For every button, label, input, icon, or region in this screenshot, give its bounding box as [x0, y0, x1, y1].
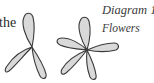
figure-caption-title: Diagram 1	[102, 3, 154, 18]
three-petal-flower-icon	[5, 13, 46, 78]
petal	[87, 50, 97, 79]
petal	[32, 47, 46, 78]
petal	[61, 50, 87, 74]
petal	[23, 13, 34, 47]
petal	[87, 43, 118, 52]
figure-caption-subtitle: Flowers	[102, 22, 140, 34]
petal	[5, 47, 32, 72]
